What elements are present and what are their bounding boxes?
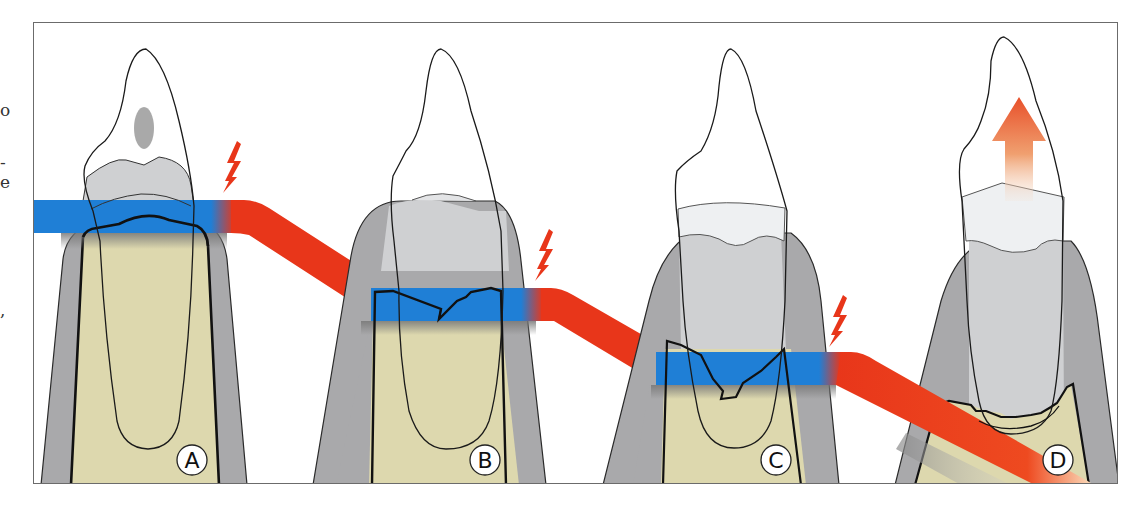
cropped-text-fragment-2: - <box>0 152 6 172</box>
svg-text:B: B <box>477 448 492 473</box>
svg-text:A: A <box>184 448 199 473</box>
svg-text:C: C <box>768 448 783 473</box>
diagram-canvas: A B <box>34 23 1118 484</box>
panel-label-c: C <box>761 445 791 475</box>
panel-label-a: A <box>177 445 207 475</box>
diagram-frame: A B <box>33 22 1118 484</box>
cavity-dot-icon <box>134 107 154 149</box>
svg-text:D: D <box>1050 448 1067 473</box>
lightning-icon <box>223 141 241 193</box>
lightning-icon <box>829 295 847 347</box>
panel-c: C <box>603 49 847 484</box>
panel-d: D <box>836 37 1118 484</box>
cropped-text-fragment-1: o <box>0 100 10 120</box>
cropped-text-fragment-3: e <box>0 172 10 192</box>
panel-label-d: D <box>1043 445 1073 475</box>
panel-a: A <box>34 49 247 484</box>
panel-b: B <box>313 49 553 484</box>
cropped-text-fragment-4: , <box>0 300 5 320</box>
panel-label-b: B <box>470 445 500 475</box>
lightning-icon <box>535 229 553 281</box>
